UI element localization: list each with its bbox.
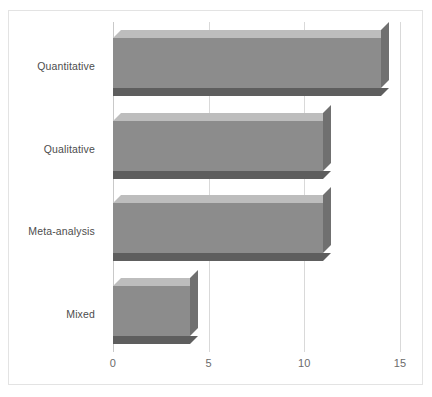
bar-top-face	[113, 278, 198, 286]
bar-top-face	[113, 195, 331, 203]
bar-qualitative[interactable]	[113, 121, 323, 179]
bar-mixed[interactable]	[113, 286, 190, 344]
bar-side-face	[381, 22, 389, 88]
bar-chart: Quantitative Qualitative Meta-analysis M…	[0, 0, 432, 397]
gridline-15	[400, 22, 401, 352]
bar-side-face	[323, 187, 331, 253]
category-label-mixed: Mixed	[0, 308, 95, 320]
bar-quantitative[interactable]	[113, 38, 381, 96]
x-tick-label-15: 15	[394, 357, 407, 369]
category-label-quantitative: Quantitative	[0, 60, 95, 72]
x-tick-label-5: 5	[205, 357, 211, 369]
bar-top-face	[113, 30, 389, 38]
category-label-meta-analysis: Meta-analysis	[0, 225, 95, 237]
x-tick-label-0: 0	[110, 357, 116, 369]
bar-bottom-shadow	[113, 88, 381, 96]
bar-meta-analysis[interactable]	[113, 203, 323, 261]
bar-bottom-shadow	[113, 171, 323, 179]
bar-side-face	[190, 270, 198, 336]
x-tick-label-10: 10	[298, 357, 311, 369]
bar-bottom-shadow	[113, 253, 323, 261]
category-label-qualitative: Qualitative	[0, 143, 95, 155]
plot-area	[113, 22, 400, 352]
bar-top-face	[113, 113, 331, 121]
bar-side-face	[323, 105, 331, 171]
bar-bottom-shadow	[113, 336, 190, 344]
